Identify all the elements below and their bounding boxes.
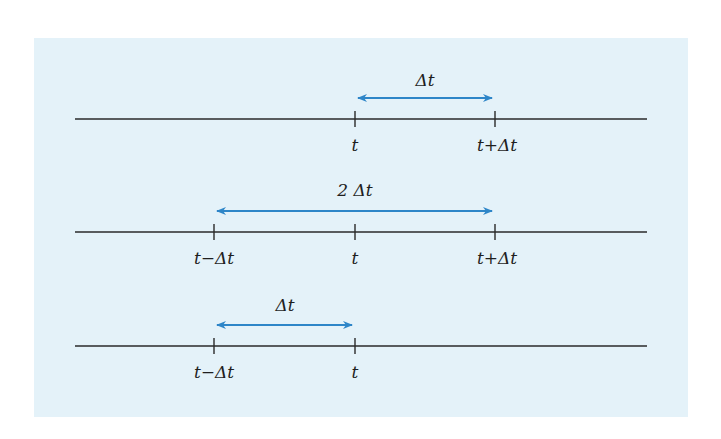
backward-difference-row [75,325,647,354]
interval-label: Δt [415,70,434,90]
tick-label: t+Δt [477,135,517,155]
tick-label: t [352,248,359,268]
tick-label: t [352,362,359,382]
central-difference-row [75,211,647,240]
tick-label: t+Δt [477,248,517,268]
forward-difference-row [75,98,647,127]
interval-label: Δt [275,295,294,315]
tick-label: t−Δt [194,362,234,382]
tick-label: t [352,135,359,155]
tick-label: t−Δt [194,248,234,268]
time-step-diagram [0,0,721,439]
interval-label: 2 Δt [337,180,372,200]
